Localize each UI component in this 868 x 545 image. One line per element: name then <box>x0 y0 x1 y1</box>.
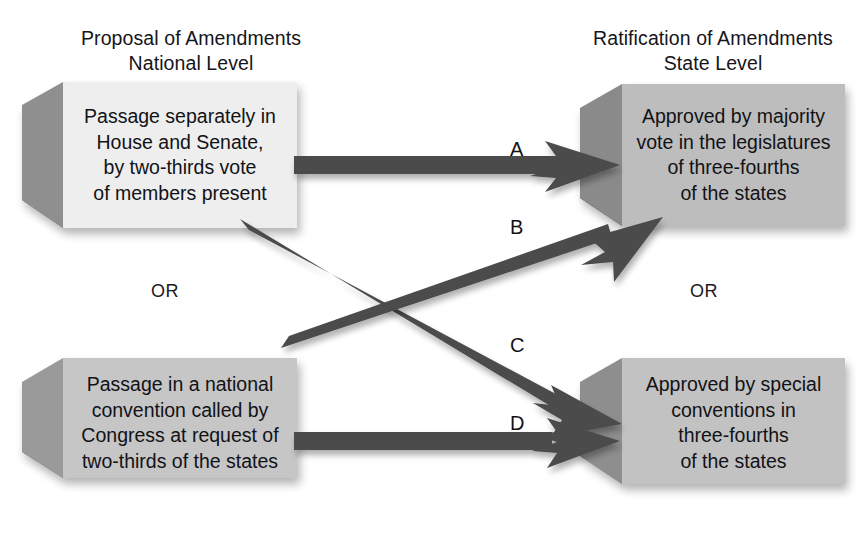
arrow-b <box>281 217 663 348</box>
box-front-face <box>622 358 845 484</box>
diagram-graphics-layer <box>0 0 868 545</box>
arrow-b-shaft <box>281 224 612 348</box>
arrow-a <box>294 141 620 192</box>
box-proposal-congress <box>22 82 297 228</box>
box-front-face <box>622 84 845 226</box>
box-side-face <box>22 358 63 478</box>
arrow-label-a: A <box>510 138 524 161</box>
arrow-label-d: D <box>510 412 525 435</box>
box-ratification-conventions <box>580 358 845 484</box>
box-ratification-legislatures <box>580 84 845 226</box>
box-front-face <box>63 358 297 478</box>
box-proposal-convention <box>22 358 297 478</box>
diagram-canvas: Proposal of Amendments National Level Ra… <box>0 0 868 545</box>
arrow-label-b: B <box>510 216 524 239</box>
arrow-label-c: C <box>510 334 525 357</box>
arrow-b-head <box>581 217 663 282</box>
